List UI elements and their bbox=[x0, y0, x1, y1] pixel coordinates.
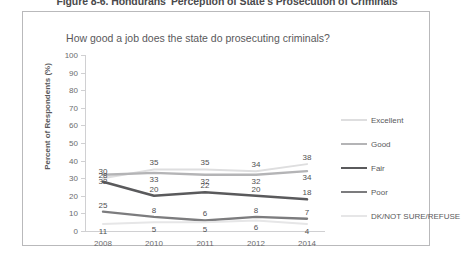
x-tick-label: 2010 bbox=[145, 239, 163, 248]
legend-item[interactable]: Poor bbox=[341, 180, 461, 204]
series-line bbox=[103, 171, 307, 175]
y-tick-label: 100 bbox=[65, 51, 78, 60]
legend-item[interactable]: Fair bbox=[341, 156, 461, 180]
data-point-label: 5 bbox=[203, 225, 207, 234]
y-tick-label: 70 bbox=[69, 103, 78, 112]
legend-item[interactable]: Excellent bbox=[341, 108, 461, 132]
legend-swatch-icon bbox=[341, 119, 367, 121]
plot-area: 0102030405060708090100 20082010201120122… bbox=[85, 55, 325, 231]
chart-title: How good a job does the state do prosecu… bbox=[63, 32, 333, 44]
legend-item[interactable]: DK/NOT SURE/REFUSE bbox=[341, 204, 461, 228]
data-point-label: 35 bbox=[201, 158, 210, 167]
y-tick-label: 90 bbox=[69, 68, 78, 77]
data-point-label: 34 bbox=[252, 160, 261, 169]
legend-swatch-icon bbox=[341, 143, 367, 145]
series-lines bbox=[85, 55, 325, 231]
data-point-label: 8 bbox=[254, 205, 258, 214]
data-point-label: 38 bbox=[303, 153, 312, 162]
legend-item-label: Poor bbox=[371, 188, 388, 197]
data-point-label: 35 bbox=[150, 158, 159, 167]
data-point-label: 8 bbox=[152, 205, 156, 214]
y-tick-label: 0 bbox=[74, 227, 78, 236]
data-point-label: 34 bbox=[303, 173, 312, 182]
legend-item-label: Fair bbox=[371, 164, 385, 173]
data-point-label: 5 bbox=[152, 225, 156, 234]
data-point-label: 28 bbox=[99, 170, 108, 179]
data-point-label: 20 bbox=[150, 184, 159, 193]
legend-swatch-icon bbox=[341, 167, 367, 169]
legend-swatch-icon bbox=[341, 191, 367, 193]
y-tick-label: 60 bbox=[69, 121, 78, 130]
y-axis-title: Percent of Respondents (%) bbox=[43, 57, 52, 177]
x-tick-label: 2008 bbox=[94, 239, 112, 248]
legend-item-label: Excellent bbox=[371, 116, 403, 125]
x-tick-label: 2014 bbox=[298, 239, 316, 248]
y-tick-label: 40 bbox=[69, 156, 78, 165]
legend-item[interactable]: Good bbox=[341, 132, 461, 156]
y-tick-label: 20 bbox=[69, 191, 78, 200]
y-tick-mark bbox=[81, 231, 85, 232]
data-point-label: 18 bbox=[303, 188, 312, 197]
data-point-label: 7 bbox=[305, 207, 309, 216]
y-tick-label: 10 bbox=[69, 209, 78, 218]
y-tick-label: 80 bbox=[69, 86, 78, 95]
figure-caption: Figure 8-6. Hondurans' Perception of Sta… bbox=[0, 0, 454, 9]
legend-item-label: Good bbox=[371, 140, 391, 149]
x-tick-label: 2012 bbox=[247, 239, 265, 248]
data-point-label: 6 bbox=[203, 209, 207, 218]
data-point-label: 4 bbox=[305, 226, 309, 235]
data-point-label: 11 bbox=[99, 226, 107, 235]
y-tick-label: 50 bbox=[69, 139, 78, 148]
data-point-label: 20 bbox=[252, 184, 261, 193]
data-point-label: 33 bbox=[150, 174, 159, 183]
data-point-label: 25 bbox=[99, 200, 108, 209]
y-tick-label: 30 bbox=[69, 174, 78, 183]
chart-frame: How good a job does the state do prosecu… bbox=[22, 11, 430, 246]
legend-item-label: DK/NOT SURE/REFUSE bbox=[371, 212, 460, 221]
legend-swatch-icon bbox=[341, 215, 367, 217]
chart-legend: ExcellentGoodFairPoorDK/NOT SURE/REFUSE bbox=[341, 108, 461, 228]
x-tick-label: 2011 bbox=[196, 239, 213, 248]
data-point-label: 6 bbox=[254, 223, 258, 232]
data-point-label: 22 bbox=[201, 181, 210, 190]
